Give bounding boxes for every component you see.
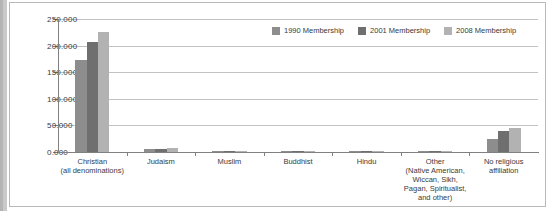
bar[interactable] (87, 42, 98, 152)
bar[interactable] (235, 151, 246, 152)
legend-swatch-2001-icon (358, 27, 366, 35)
x-axis-tick (469, 152, 470, 156)
bar[interactable] (429, 151, 440, 152)
bar[interactable] (498, 131, 509, 152)
legend-item-2001[interactable]: 2001 Membership (358, 26, 430, 35)
legend-label-2001: 2001 Membership (370, 26, 430, 35)
bar[interactable] (509, 128, 520, 152)
y-axis-tick-label: 150.000 (47, 68, 53, 77)
legend-label-2008: 2008 Membership (456, 26, 516, 35)
y-axis-tick-label: 100.000 (47, 95, 53, 104)
left-gutter-band (0, 0, 7, 211)
y-axis-tick-label: 200.000 (47, 42, 53, 51)
x-axis-tick (332, 152, 333, 156)
bar[interactable] (98, 32, 109, 152)
bar[interactable] (418, 151, 429, 152)
bar[interactable] (304, 151, 315, 152)
legend-item-1990[interactable]: 1990 Membership (272, 26, 344, 35)
legend-swatch-1990-icon (272, 27, 280, 35)
legend-swatch-2008-icon (444, 27, 452, 35)
bar[interactable] (292, 151, 303, 152)
y-axis-tick-label: 50.000 (47, 121, 53, 130)
y-axis-tick-label: 0.000 (47, 148, 53, 157)
bar[interactable] (349, 151, 360, 152)
bar[interactable] (441, 151, 452, 152)
x-axis-line (58, 152, 539, 153)
bar[interactable] (167, 148, 178, 152)
chart-legend: 1990 Membership 2001 Membership 2008 Mem… (272, 26, 516, 35)
x-axis-tick (127, 152, 128, 156)
bar[interactable] (361, 151, 372, 152)
x-axis-tick (195, 152, 196, 156)
bar[interactable] (281, 151, 292, 152)
chart-page: 0.00050.000100.000150.000200.000250.000 … (0, 0, 558, 211)
bar[interactable] (155, 149, 166, 152)
plot-area (58, 19, 538, 152)
x-axis-tick (264, 152, 265, 156)
bar[interactable] (212, 151, 223, 152)
bar[interactable] (224, 151, 235, 152)
bar[interactable] (487, 139, 498, 152)
legend-item-2008[interactable]: 2008 Membership (444, 26, 516, 35)
bar[interactable] (372, 151, 383, 152)
legend-label-1990: 1990 Membership (284, 26, 344, 35)
bar[interactable] (75, 60, 86, 152)
bar[interactable] (144, 149, 155, 152)
left-gutter-edge (0, 0, 3, 211)
y-axis-tick-label: 250.000 (47, 15, 53, 24)
x-axis-category-label: No religious affiliation (450, 157, 557, 175)
x-axis-tick (401, 152, 402, 156)
